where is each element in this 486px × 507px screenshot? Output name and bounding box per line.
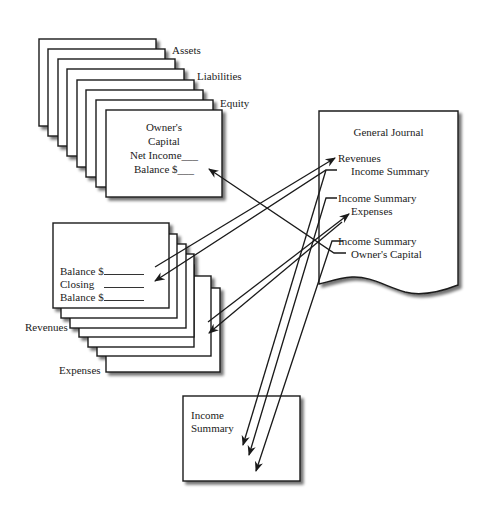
closing-blank bbox=[104, 277, 144, 288]
journal-entry-1-credit: Income Summary bbox=[351, 165, 430, 178]
owners-capital-net-income: Net Income___ bbox=[106, 149, 222, 162]
balance-blank-1 bbox=[104, 264, 144, 275]
journal-entry-2-debit: Income Summary bbox=[338, 192, 417, 205]
balance-label-1: Balance $ bbox=[60, 265, 104, 277]
temp-card-closing: Closing bbox=[60, 277, 144, 291]
balance-blank-2 bbox=[104, 290, 144, 301]
temp-card-balance-1: Balance $ bbox=[60, 264, 144, 278]
journal-entry-3-debit: Income Summary bbox=[338, 235, 417, 248]
owners-capital-title-2: Capital bbox=[106, 135, 222, 148]
label-assets: Assets bbox=[172, 44, 201, 57]
journal-entry-2-credit: Expenses bbox=[351, 205, 393, 218]
closing-label: Closing bbox=[60, 278, 94, 290]
temp-card-balance-2: Balance $ bbox=[60, 290, 144, 304]
owners-capital-balance: Balance $___ bbox=[106, 163, 222, 176]
balance-label-2: Balance $ bbox=[60, 291, 104, 303]
label-liabilities: Liabilities bbox=[197, 70, 242, 83]
income-summary-title-1: Income bbox=[191, 409, 224, 422]
general-journal-title: General Journal bbox=[319, 126, 458, 139]
label-expenses: Expenses bbox=[59, 364, 101, 377]
journal-entry-3-credit: Owner's Capital bbox=[351, 248, 422, 261]
owners-capital-title-1: Owner's bbox=[106, 121, 222, 134]
income-summary-title-2: Summary bbox=[191, 422, 234, 435]
journal-entry-1-debit: Revenues bbox=[338, 152, 381, 165]
label-equity: Equity bbox=[220, 97, 249, 110]
label-revenues: Revenues bbox=[25, 321, 68, 334]
